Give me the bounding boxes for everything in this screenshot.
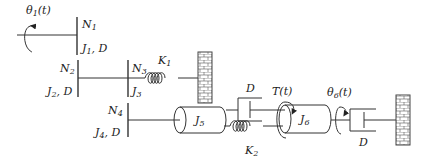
D-top-label: D	[245, 82, 255, 95]
N1-label: N1	[81, 18, 97, 32]
N3-label: N3	[131, 62, 147, 76]
mechanical-diagram: θ1(t) N1 J1, D N2 J2, D N3 J3 K1 N4 J4, …	[0, 0, 426, 168]
fixed-wall-1	[198, 52, 212, 103]
T-label: T(t)	[272, 85, 292, 98]
K1-label: K1	[157, 54, 171, 68]
J6-label: J6	[298, 113, 310, 127]
fixed-wall-2	[396, 95, 410, 145]
N2-label: N2	[59, 62, 75, 76]
damper-D-right	[350, 109, 396, 131]
J4D-label: J4, D	[93, 126, 121, 140]
J2D-label: J2, D	[45, 85, 73, 99]
J3-label: J3	[130, 85, 142, 99]
J1D-label: J1, D	[80, 42, 108, 56]
N4-label: N4	[107, 104, 123, 118]
theta1-rotation-arrow-icon	[25, 26, 33, 52]
K2-label: K2	[244, 144, 258, 158]
theta6-label: θ6(t)	[327, 86, 352, 100]
D-right-label: D	[358, 136, 368, 149]
spring-K2	[224, 121, 283, 132]
theta1-label: θ1(t)	[26, 4, 51, 18]
damper-D-top	[226, 98, 285, 121]
J5-label: J5	[193, 114, 205, 128]
